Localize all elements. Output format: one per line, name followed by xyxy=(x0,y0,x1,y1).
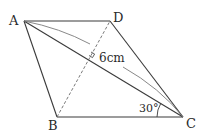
vertex-label-c: C xyxy=(186,116,196,131)
diagonal-ac xyxy=(24,21,183,117)
diagonal-bd-dashed xyxy=(57,21,110,117)
side-ab xyxy=(24,21,57,117)
rhombus-diagram: A D B C 6cm 30° xyxy=(0,0,207,134)
vertex-label-b: B xyxy=(48,118,58,133)
vertex-label-a: A xyxy=(8,13,19,28)
vertex-label-d: D xyxy=(113,10,123,25)
length-label: 6cm xyxy=(99,51,125,65)
angle-label: 30° xyxy=(139,102,159,115)
